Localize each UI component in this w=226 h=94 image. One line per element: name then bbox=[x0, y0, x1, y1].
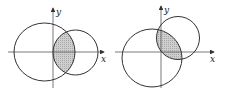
diagram-canvas: y x y x bbox=[0, 0, 226, 94]
left-figure: y x bbox=[8, 7, 106, 88]
right-figure: y x bbox=[115, 5, 215, 88]
left-x-label: x bbox=[101, 54, 106, 64]
right-y-label: y bbox=[163, 5, 170, 15]
right-x-label: x bbox=[210, 54, 215, 64]
left-y-label: y bbox=[55, 7, 62, 17]
